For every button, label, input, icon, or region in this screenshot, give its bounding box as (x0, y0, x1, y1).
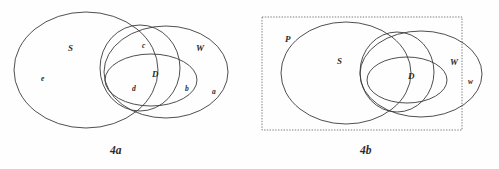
caption-4a: 4a (110, 145, 122, 157)
label-set-s: S (337, 57, 342, 66)
ellipse-set-d (367, 57, 447, 103)
label-set-w: W (450, 58, 458, 67)
caption-4b: 4b (360, 145, 372, 157)
label-set-s: S (68, 44, 73, 53)
venn-figure-root: S e c W D d b a 4a P S W D w 4b (0, 0, 499, 169)
venn-svg-4a (0, 0, 250, 140)
venn-svg-4b (249, 0, 499, 140)
label-region-d: d (132, 85, 136, 93)
diagram-panel-4a: S e c W D d b a 4a (0, 0, 250, 169)
ellipse-set-d (105, 54, 197, 106)
ellipse-middle-vertical (360, 32, 434, 112)
label-set-d: D (152, 70, 159, 79)
diagram-panel-4b: P S W D w 4b (249, 0, 499, 169)
ellipse-set-w (104, 26, 228, 118)
label-region-a: a (212, 88, 216, 96)
label-region-b: b (185, 85, 189, 93)
label-region-w: w (468, 78, 473, 86)
ellipse-middle-vertical (100, 25, 180, 111)
label-set-w: W (196, 44, 204, 53)
ellipse-set-s (281, 22, 411, 124)
label-region-e: e (41, 75, 44, 83)
ellipse-set-w (360, 31, 482, 117)
label-set-d: D (408, 72, 415, 81)
label-set-p: P (285, 35, 291, 44)
universe-box-p (262, 17, 462, 130)
label-region-c: c (142, 42, 145, 50)
